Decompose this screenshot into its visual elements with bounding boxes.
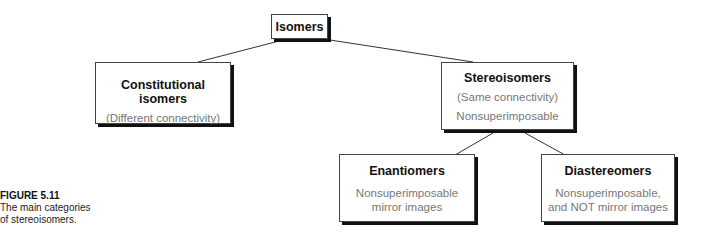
node-title: Constitutional isomers <box>96 78 230 106</box>
node-diastereomers: Diastereomers Nonsuperimposable, and NOT… <box>541 154 675 222</box>
node-description: and NOT mirror images <box>542 200 674 214</box>
figure-caption: FIGURE 5.11 The main categories of stere… <box>0 190 91 226</box>
node-description: Nonsuperimposable <box>442 109 573 123</box>
node-description: (Different connectivity) <box>96 111 230 125</box>
node-title: Isomers <box>272 20 327 34</box>
node-constitutional-isomers: Constitutional isomers (Different connec… <box>95 62 231 124</box>
node-stereoisomers: Stereoisomers (Same connectivity) Nonsup… <box>441 62 574 130</box>
node-enantiomers: Enantiomers Nonsuperimposable mirror ima… <box>339 154 475 222</box>
caption-text: of stereoisomers. <box>0 214 91 226</box>
figure-label: FIGURE 5.11 <box>0 190 91 202</box>
node-isomers: Isomers <box>271 14 328 39</box>
caption-text: The main categories <box>0 202 91 214</box>
node-description: mirror images <box>340 200 474 214</box>
node-description: Nonsuperimposable, <box>542 186 674 200</box>
node-description: Nonsuperimposable <box>340 186 474 200</box>
node-title: Enantiomers <box>340 164 474 178</box>
node-description: (Same connectivity) <box>442 90 573 104</box>
node-title: Diastereomers <box>542 164 674 178</box>
node-title: Stereoisomers <box>442 71 573 85</box>
